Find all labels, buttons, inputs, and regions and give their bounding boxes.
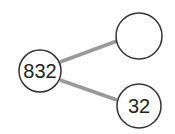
connector-whole-to-part-1 [60, 41, 117, 62]
part-node-1[interactable] [116, 13, 162, 59]
part-2-value: 32 [128, 95, 150, 117]
number-bond-diagram: 832 32 [0, 0, 175, 134]
whole-node: 832 [19, 50, 61, 92]
part-node-2: 32 [117, 84, 161, 128]
whole-value: 832 [23, 60, 56, 82]
connector-whole-to-part-2 [60, 80, 117, 100]
